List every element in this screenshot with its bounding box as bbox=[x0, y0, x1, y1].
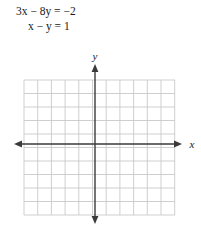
x-axis-arrow-left bbox=[14, 141, 22, 148]
coordinate-plane-svg: y x bbox=[0, 44, 201, 232]
y-axis-arrow-up bbox=[92, 64, 99, 72]
worksheet-figure: 3x − 8y = −2 x − y = 1 y x bbox=[0, 0, 201, 232]
y-axis-label: y bbox=[92, 50, 98, 62]
coordinate-plane: y x bbox=[0, 44, 201, 232]
equation-line-1: 3x − 8y = −2 bbox=[0, 4, 201, 19]
grid-lines bbox=[24, 80, 175, 215]
y-axis-arrow-down bbox=[92, 216, 99, 224]
equation-line-2: x − y = 1 bbox=[0, 19, 201, 34]
axes bbox=[14, 64, 182, 224]
equation-system: 3x − 8y = −2 x − y = 1 bbox=[0, 4, 201, 34]
x-axis-label: x bbox=[189, 138, 195, 150]
x-axis-arrow-right bbox=[174, 141, 182, 148]
